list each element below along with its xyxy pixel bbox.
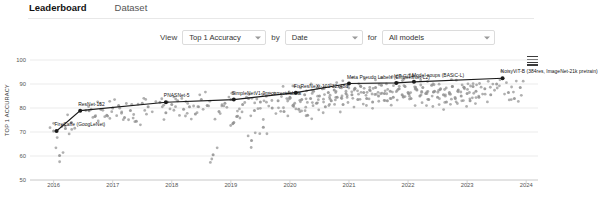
scatter-point <box>432 83 435 86</box>
view-label: View <box>160 33 177 42</box>
scatter-point <box>392 84 395 87</box>
for-label: for <box>368 33 377 42</box>
scatter-point <box>253 109 256 112</box>
scatter-point <box>383 99 386 102</box>
scatter-point <box>164 111 167 114</box>
frontier-point-label: SimpleNetV1-9m-correct-labels <box>232 91 301 96</box>
frontier-point <box>164 100 168 104</box>
scatter-point <box>55 146 58 149</box>
scatter-point <box>250 139 253 142</box>
scatter-point <box>450 98 453 101</box>
scatter-point <box>477 95 480 98</box>
scatter-point <box>336 96 339 99</box>
scatter-point <box>266 132 269 135</box>
scatter-point <box>384 89 387 92</box>
scatter-point <box>309 97 312 100</box>
scatter-point <box>270 99 273 102</box>
scatter-point <box>335 90 338 93</box>
tab-dataset[interactable]: Dataset <box>114 2 149 18</box>
scatter-point <box>73 127 76 130</box>
scatter-point <box>407 92 410 95</box>
scatter-point <box>267 105 270 108</box>
scatter-point <box>438 97 441 100</box>
scatter-point <box>396 99 399 102</box>
scatter-point <box>216 146 219 149</box>
scatter-point <box>481 93 484 96</box>
chevron-down-icon <box>484 36 490 39</box>
metric-select[interactable]: Top 1 Accuracy <box>182 30 266 45</box>
scatter-point <box>160 97 163 100</box>
scatter-point <box>151 110 154 113</box>
scatter-point <box>172 109 175 112</box>
scatter-point <box>198 93 201 96</box>
scatter-point <box>317 98 320 101</box>
y-axis-tick: 50 <box>10 177 26 183</box>
scatter-point <box>466 88 469 91</box>
scatter-point <box>350 90 353 93</box>
scatter-point <box>174 105 177 108</box>
scatter-point <box>421 86 424 89</box>
scatter-point <box>247 135 250 138</box>
x-axis-tick: 2016 <box>41 182 67 188</box>
scatter-point <box>350 93 353 96</box>
scatter-point <box>282 106 285 109</box>
scatter-point <box>277 99 280 102</box>
scatter-point <box>190 118 193 121</box>
scatter-point <box>127 118 130 121</box>
scatter-point <box>196 111 199 114</box>
scatter-point <box>277 106 280 109</box>
scatter-point <box>106 115 109 118</box>
tab-list: Leaderboard Dataset <box>28 2 148 19</box>
scatter-point <box>353 89 356 92</box>
scatter-point <box>339 111 342 114</box>
frontier-point-label: NoisyViT-B (384res, ImageNet-21k pretrai… <box>501 69 598 74</box>
scatter-point <box>491 83 494 86</box>
frontier-point-label: PNASNet-5 <box>164 93 190 98</box>
scatter-point <box>169 107 172 110</box>
scatter-point <box>214 118 217 121</box>
scatter-point <box>225 106 228 109</box>
scatter-point <box>327 91 330 94</box>
tab-leaderboard[interactable]: Leaderboard <box>28 2 88 19</box>
scatter-point <box>259 101 262 104</box>
scatter-point <box>311 101 314 104</box>
scatter-point <box>305 114 308 117</box>
scatter-point <box>346 94 349 97</box>
axis-select[interactable]: Date <box>285 30 363 45</box>
scatter-point <box>493 89 496 92</box>
scatter-point <box>356 89 359 92</box>
scatter-point <box>392 96 395 99</box>
scatter-point <box>202 108 205 111</box>
frontier-line <box>57 78 503 131</box>
scatter-point <box>468 97 471 100</box>
scatter-point <box>184 115 187 118</box>
scatter-point <box>462 86 465 89</box>
scatter-point <box>469 85 472 88</box>
scatter-point <box>342 103 345 106</box>
scatter-point <box>170 103 173 106</box>
scatter-point <box>340 97 343 100</box>
scatter-point <box>414 104 417 107</box>
scatter-point <box>498 84 501 87</box>
scatter-point <box>299 100 302 103</box>
scatter-point <box>154 100 157 103</box>
scatter-point <box>297 108 300 111</box>
scatter-point <box>324 105 327 108</box>
scatter-point <box>379 92 382 95</box>
scatter-point <box>431 105 434 108</box>
scatter-point <box>357 93 360 96</box>
x-axis-tick: 2024 <box>513 182 539 188</box>
scatter-point <box>328 96 331 99</box>
by-label: by <box>271 33 279 42</box>
scatter-point <box>333 103 336 106</box>
scatter-point <box>368 86 371 89</box>
scatter-point <box>228 96 231 99</box>
scatter-point <box>259 107 262 110</box>
scatter-point <box>397 88 400 91</box>
scatter-point <box>468 91 471 94</box>
filter-select[interactable]: All models <box>382 30 495 45</box>
scatter-point <box>58 160 61 163</box>
scatter-point <box>110 110 113 113</box>
scatter-point <box>341 95 344 98</box>
scatter-point <box>306 101 309 104</box>
